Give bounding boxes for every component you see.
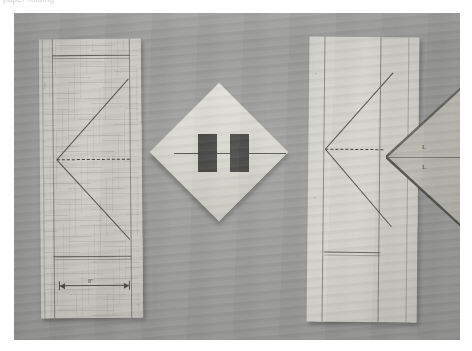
dimension-arrow-left [60, 283, 65, 289]
triangular-flap: L L [386, 71, 460, 243]
flap-label-top: L [422, 143, 426, 151]
right-left-border-line [322, 37, 326, 322]
diamond-center-line [174, 153, 286, 154]
right-margin-tick-top: · [315, 70, 317, 76]
right-center-axis-dashed [325, 149, 383, 151]
left-sheet-content: | 8" [39, 39, 143, 319]
caption-text: paper folding [3, 0, 54, 4]
dimension-tick-right [129, 281, 130, 290]
diamond-folded-sheet [154, 91, 288, 235]
right-margin-tick-bottom: · [314, 194, 316, 200]
graph-paper-sheet: | 8" [40, 39, 142, 318]
flap-label-bottom: L [422, 163, 426, 171]
photograph: | 8" [14, 13, 460, 340]
right-bottom-rule-line-2 [324, 255, 380, 257]
dimension-label: 8" [87, 278, 95, 285]
right-bottom-rule-line [324, 252, 380, 254]
caption-strip: paper folding [0, 0, 472, 7]
diamond-sheet-body [150, 83, 289, 222]
margin-tick: | [44, 81, 45, 87]
dimension-arrow-right [124, 282, 129, 288]
right-inner-line [378, 37, 382, 322]
right-chevron-upper-stroke [325, 72, 393, 149]
right-chevron-lower-stroke [325, 149, 392, 227]
flap-center-line [386, 157, 460, 158]
